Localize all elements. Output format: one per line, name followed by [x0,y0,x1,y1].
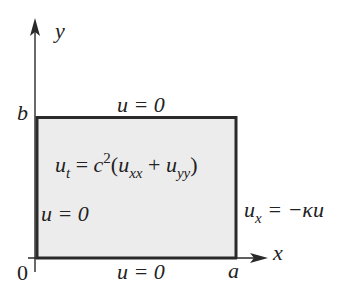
x-axis-label: x [273,242,283,264]
eq-lhs-sub: t [66,165,70,181]
eq-coef-sup: 2 [103,150,111,166]
bc-top: u = 0 [117,94,165,116]
bc-left: u = 0 [41,203,89,225]
eq-equals: = [70,152,93,177]
bc-right: ux = −κu [244,199,324,221]
eq-term1-sub: xx [129,165,142,181]
eq-plus: + [143,152,166,177]
bc-right-sub: x [255,210,262,226]
pde-equation: ut = c2(uxx + uyy) [55,154,198,176]
bc-bottom: u = 0 [117,261,165,283]
eq-term1: u [118,152,129,177]
y-tick-label-b: b [17,102,28,124]
eq-lhs: u [55,152,66,177]
eq-term2: u [166,152,177,177]
y-axis-label: y [55,20,65,42]
eq-close-paren: ) [190,152,197,177]
eq-term2-sub: yy [177,165,190,181]
domain-region [37,118,236,258]
origin-label: 0 [17,262,28,284]
eq-coef: c [94,152,104,177]
bc-right-rest: = −κu [262,197,324,222]
diagram-canvas [0,0,347,297]
x-tick-label-a: a [228,260,239,282]
bc-right-var: u [244,197,255,222]
